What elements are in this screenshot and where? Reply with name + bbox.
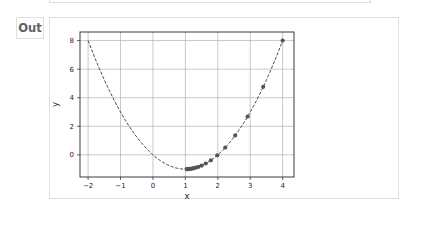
iterate-point <box>215 153 219 157</box>
y-tick-label: 8 <box>70 37 74 45</box>
iterate-point <box>261 85 265 89</box>
iterate-point <box>281 38 285 42</box>
x-tick-label: 2 <box>216 182 220 190</box>
x-tick-label: 1 <box>183 182 187 190</box>
iterate-point <box>185 167 189 171</box>
y-tick-label: 4 <box>70 94 75 102</box>
x-tick-label: −2 <box>83 182 93 190</box>
y-axis-label: y <box>50 102 60 107</box>
y-tick-label: 6 <box>70 66 75 74</box>
plot-series <box>88 38 285 171</box>
x-tick-label: 4 <box>280 182 285 190</box>
y-tick-label: 0 <box>70 151 74 159</box>
axis-ticks: −2−10123402468 <box>70 37 286 190</box>
grid-lines <box>80 32 294 177</box>
iterate-point <box>209 158 213 162</box>
y-tick-label: 2 <box>70 123 74 131</box>
x-tick-label: 0 <box>151 182 155 190</box>
x-tick-label: 3 <box>248 182 252 190</box>
iterate-point <box>204 161 208 165</box>
x-tick-label: −1 <box>115 182 125 190</box>
chart: −2−10123402468 x y <box>0 0 422 229</box>
iterate-point <box>223 145 227 149</box>
axes-frame <box>80 32 294 177</box>
iterate-point <box>233 133 237 137</box>
x-axis-label: x <box>184 191 189 201</box>
iterate-point <box>246 114 250 118</box>
